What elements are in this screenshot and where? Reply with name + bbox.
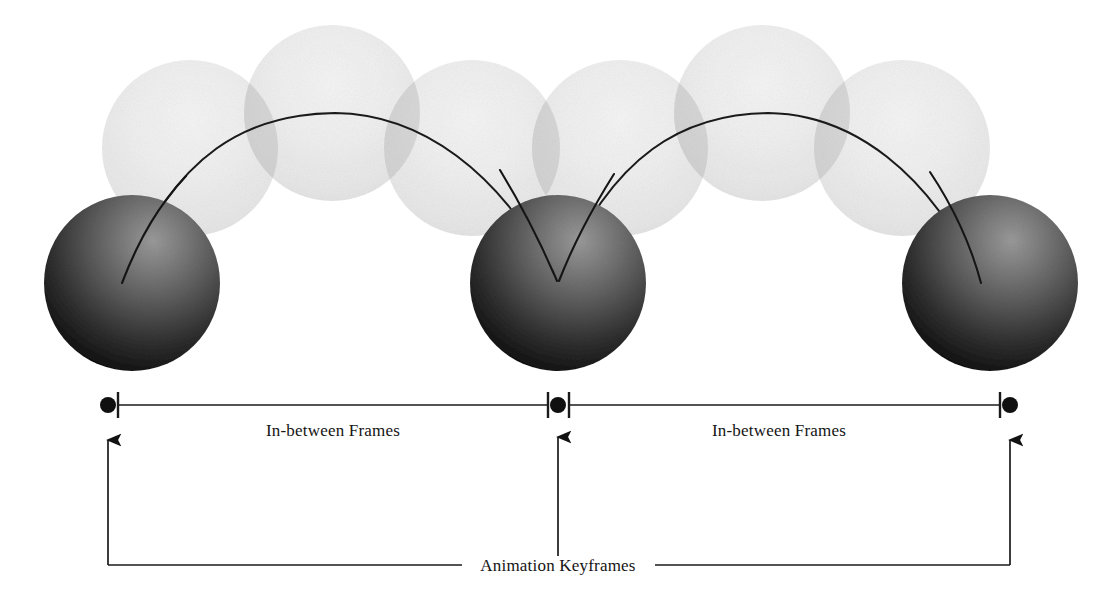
keyframe-marker-dot-1 bbox=[100, 397, 116, 413]
keyframe-ball-1 bbox=[44, 195, 220, 371]
animation-keyframes-label: Animation Keyframes bbox=[471, 556, 644, 576]
timeline-group bbox=[100, 392, 1018, 418]
animation-keyframes-illustration bbox=[0, 0, 1117, 600]
keyframes-bracket bbox=[108, 437, 1010, 565]
inbetween-frames-label-right: In-between Frames bbox=[708, 421, 850, 441]
keyframe-marker-dot-3 bbox=[1002, 397, 1018, 413]
inbetween-frames-label-left: In-between Frames bbox=[262, 421, 404, 441]
keyframe-ball-3 bbox=[902, 195, 1078, 371]
keyframe-marker-dot-2 bbox=[550, 397, 566, 413]
keyframe-ball-2 bbox=[470, 195, 646, 371]
diagram-canvas: In-between Frames In-between Frames Anim… bbox=[0, 0, 1117, 600]
